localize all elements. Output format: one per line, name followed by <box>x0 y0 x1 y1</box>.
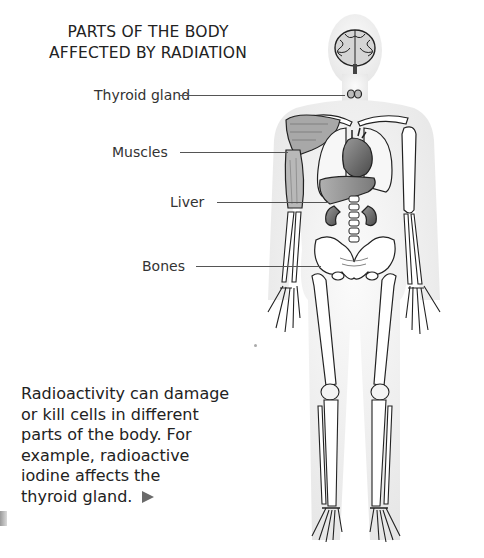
caption-line-4: example, radioactive <box>21 446 261 467</box>
caption-line-3: parts of the body. For <box>21 425 261 446</box>
kneecaps-icon <box>321 384 389 400</box>
leader-line-muscles <box>180 152 288 153</box>
label-thyroid-gland: Thyroid gland <box>94 87 190 103</box>
leader-line-bones <box>196 266 321 267</box>
caption-line-6-wrap: thyroid gland. <box>21 487 261 508</box>
arrow-right-icon <box>142 491 154 503</box>
lower-leg-bones-icon <box>318 400 392 506</box>
stray-dot <box>254 344 257 347</box>
humerus-icon <box>402 127 416 213</box>
caption-line-2: or kill cells in different <box>21 405 261 426</box>
caption-line-5: iodine affects the <box>21 466 261 487</box>
label-muscles: Muscles <box>112 144 168 160</box>
leader-line-liver <box>217 202 329 203</box>
leader-line-thyroid <box>180 95 345 96</box>
label-bones: Bones <box>142 258 185 274</box>
caption-text: Radioactivity can damage or kill cells i… <box>21 384 261 507</box>
caption-line-6: thyroid gland. <box>21 487 132 506</box>
page-edge-tab <box>0 511 7 526</box>
caption-line-1: Radioactivity can damage <box>21 384 261 405</box>
label-liver: Liver <box>170 194 204 210</box>
